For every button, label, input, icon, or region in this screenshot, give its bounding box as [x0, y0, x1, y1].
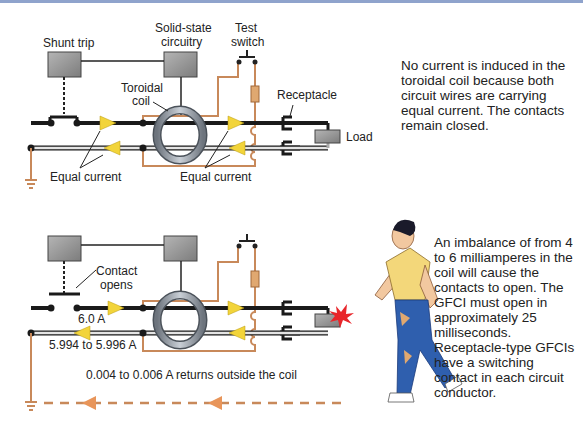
label-test-1: Test [235, 21, 257, 35]
label-equal-current-left: Equal current [50, 170, 121, 184]
bottom-description: An imbalance of from 4 to 6 milliamperes… [434, 235, 574, 400]
top-description: No current is induced in the toroidal co… [401, 58, 565, 133]
current-arrow [228, 116, 244, 130]
label-contact-2: opens [100, 278, 133, 292]
label-neutral-current: 5.994 to 5.996 A [49, 338, 136, 352]
label-shunt-trip: Shunt trip [43, 36, 94, 50]
label-solid-state-1: Solid-state [155, 21, 212, 35]
label-toroidal-1: Toroidal [121, 81, 163, 95]
label-hot-current: 6.0 A [78, 312, 105, 326]
load-box [315, 130, 340, 143]
current-arrow [104, 141, 120, 155]
label-load: Load [346, 130, 373, 144]
solid-state-box [164, 52, 197, 77]
label-leak-current: 0.004 to 0.006 A returns outside the coi… [86, 368, 297, 382]
label-test-2: switch [231, 35, 264, 49]
shunt-trip-box [48, 52, 81, 77]
current-arrow [229, 141, 245, 155]
current-arrow [100, 116, 116, 130]
label-toroidal-2: coil [132, 94, 150, 108]
label-receptacle: Receptacle [277, 88, 337, 102]
top-circuit [25, 50, 340, 188]
label-solid-state-2: circuitry [161, 35, 202, 49]
label-contact-1: Contact [96, 264, 137, 278]
label-equal-current-right: Equal current [180, 170, 251, 184]
